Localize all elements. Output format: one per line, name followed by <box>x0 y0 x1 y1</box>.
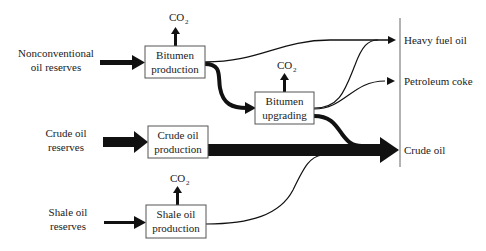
flow-crude-production-to-crude-oil <box>208 144 382 156</box>
input-arrow-shale <box>104 216 146 229</box>
svg-text:Crude oil: Crude oil <box>45 127 86 139</box>
svg-text:2: 2 <box>186 179 190 187</box>
svg-text:Nonconventional: Nonconventional <box>18 47 94 59</box>
source-crude: Crude oil reserves <box>45 127 86 153</box>
process-bitumen-production: Bitumen production <box>145 46 205 78</box>
svg-text:Crude oil: Crude oil <box>157 129 198 141</box>
input-arrow-nonconventional <box>100 55 145 70</box>
svg-text:upgrading: upgrading <box>262 109 307 121</box>
svg-text:production: production <box>152 222 200 234</box>
svg-text:Shale oil: Shale oil <box>49 206 88 218</box>
input-arrow-crude <box>103 131 148 153</box>
source-shale: Shale oil reserves <box>49 206 88 232</box>
svg-text:Bitumen: Bitumen <box>156 49 194 61</box>
svg-text:CO: CO <box>277 59 292 71</box>
svg-text:production: production <box>154 143 202 155</box>
svg-text:oil reserves: oil reserves <box>31 61 81 73</box>
svg-text:CO: CO <box>170 172 185 184</box>
svg-text:Shale oil: Shale oil <box>157 208 196 220</box>
product-petroleum-coke: Petroleum coke <box>404 75 473 87</box>
source-nonconventional: Nonconventional oil reserves <box>18 47 94 73</box>
product-crude-oil: Crude oil <box>404 144 445 156</box>
flow-bitumen-to-heavy-fuel-oil <box>205 40 388 62</box>
svg-text:2: 2 <box>293 66 297 74</box>
process-crude-oil-production: Crude oil production <box>148 126 208 158</box>
flow-bitumen-to-upgrading <box>205 64 247 108</box>
svg-text:reserves: reserves <box>48 141 84 153</box>
svg-text:reserves: reserves <box>50 220 86 232</box>
svg-text:production: production <box>151 63 199 75</box>
process-bitumen-upgrading: Bitumen upgrading <box>255 92 314 124</box>
co2-emission-bitumen-production: CO 2 <box>169 11 189 46</box>
arrowhead-heavy-fuel-oil <box>388 36 396 44</box>
svg-text:CO: CO <box>169 11 184 23</box>
flow-shale-to-crude-oil <box>206 155 322 224</box>
flow-upgrading-to-petroleum-coke <box>314 81 385 109</box>
svg-text:Bitumen: Bitumen <box>266 95 304 107</box>
process-shale-oil-production: Shale oil production <box>146 205 206 238</box>
flow-upgrading-to-crude-oil <box>314 116 362 146</box>
flow-upgrading-to-heavy-fuel-oil <box>314 40 378 108</box>
oil-flow-diagram: Nonconventional oil reserves Crude oil r… <box>0 0 486 251</box>
arrowhead-crude-oil <box>380 137 399 163</box>
co2-emission-bitumen-upgrading: CO 2 <box>277 59 297 92</box>
co2-emission-shale-production: CO 2 <box>170 172 190 205</box>
arrowhead-petroleum-coke <box>387 77 395 85</box>
product-heavy-fuel-oil: Heavy fuel oil <box>404 34 467 46</box>
svg-text:2: 2 <box>185 18 189 26</box>
arrowhead-upgrading <box>245 102 256 114</box>
